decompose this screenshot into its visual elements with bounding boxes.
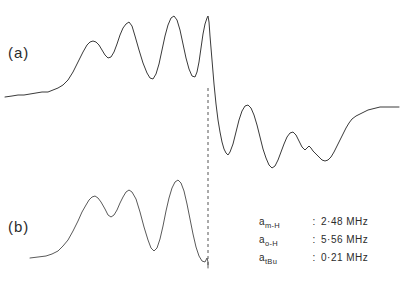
- hyperfine-parameter-row: ao-H : 5·56 MHz: [259, 234, 399, 252]
- esr-spectrum-figure: (a) (b) am-H : 2·48 MHz ao-H : 5·56 MHz …: [0, 0, 401, 283]
- parameter-symbol-o-H: ao-H: [259, 234, 307, 248]
- parameter-symbol-m-H: am-H: [259, 216, 307, 230]
- parameter-value-o-H: 5·56 MHz: [321, 234, 368, 245]
- parameter-symbol-subscript: tBu: [265, 257, 277, 266]
- parameter-symbol-subscript: m-H: [265, 221, 280, 230]
- parameter-equals-sign: :: [307, 216, 321, 227]
- hyperfine-parameter-row: atBu : 0·21 MHz: [259, 252, 399, 270]
- parameter-value-m-H: 2·48 MHz: [321, 216, 368, 227]
- parameter-symbol-tBu: atBu: [259, 252, 307, 266]
- trace-b-label: (b): [8, 218, 29, 235]
- parameter-value-tBu: 0·21 MHz: [321, 252, 368, 263]
- hyperfine-parameters-list: am-H : 2·48 MHz ao-H : 5·56 MHz atBu : 0…: [259, 216, 399, 270]
- trace-a-label: (a): [8, 44, 29, 61]
- parameter-equals-sign: :: [307, 234, 321, 245]
- hyperfine-parameter-row: am-H : 2·48 MHz: [259, 216, 399, 234]
- parameter-equals-sign: :: [307, 252, 321, 263]
- parameter-symbol-subscript: o-H: [265, 239, 278, 248]
